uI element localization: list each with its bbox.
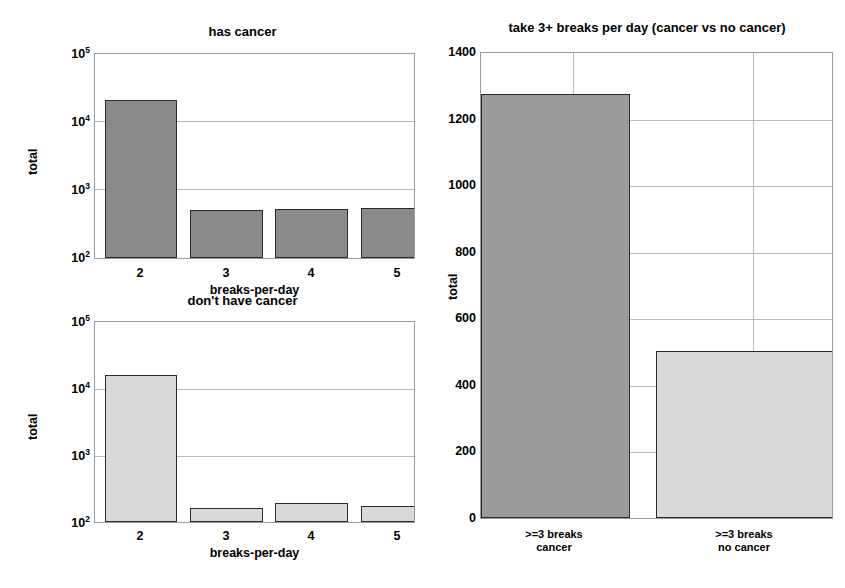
ytick-0: 0 [436,511,476,525]
panel-no-cancer-title: don't have cancer [70,293,415,308]
panel-three-plus-breaks-title: take 3+ breaks per day (cancer vs no can… [452,20,842,35]
xtick-three-plus-cancer: >=3 breaks cancer [525,528,583,554]
xtick-three-plus-no-cancer: >=3 breaks no cancer [715,528,773,554]
panel-has-cancer-ylabel: total [26,149,40,175]
ytick-1e2: 102 [46,249,90,265]
panel-has-cancer-title: has cancer [70,24,415,39]
bar-breaks-5 [361,506,415,522]
ytick-1e5: 105 [46,45,90,61]
xtick-3: 3 [223,529,230,543]
ytick-600: 600 [436,311,476,325]
bar-three-plus-no-cancer [656,351,833,518]
panel-has-cancer: has cancer total 105 104 103 102 2 3 4 5… [0,0,430,290]
chart-figure: { "figure": { "background": "#ffffff", "… [0,0,845,588]
ytick-1400: 1400 [436,45,476,59]
panel-three-plus-breaks-ylabel: total [446,274,460,300]
panel-no-cancer-plot [94,321,415,523]
xtick-line1: >=3 breaks [525,528,583,541]
ytick-1000: 1000 [436,178,476,192]
ytick-1e2: 102 [46,514,90,530]
bar-breaks-4 [275,209,348,258]
ytick-1e3: 103 [46,447,90,463]
bar-breaks-4 [275,503,348,522]
xtick-5: 5 [394,529,401,543]
xtick-4: 4 [308,529,315,543]
panel-three-plus-breaks-plot [480,52,833,519]
panel-no-cancer-xlabel: breaks-per-day [94,546,415,560]
xtick-2: 2 [137,529,144,543]
ytick-200: 200 [436,444,476,458]
ytick-1e4: 104 [46,380,90,396]
panel-three-plus-breaks: take 3+ breaks per day (cancer vs no can… [432,0,845,588]
panel-has-cancer-plot [94,53,415,259]
ytick-1e3: 103 [46,181,90,197]
panel-no-cancer-ylabel: total [26,414,40,440]
bar-breaks-2 [105,100,177,258]
ytick-1e4: 104 [46,113,90,129]
ytick-800: 800 [436,245,476,259]
bar-breaks-5 [361,208,415,258]
xtick-line2: no cancer [715,541,773,554]
xtick-line2: cancer [525,541,583,554]
bar-three-plus-cancer [481,94,630,518]
ytick-400: 400 [436,378,476,392]
bar-breaks-2 [105,375,177,522]
ytick-1200: 1200 [436,112,476,126]
panel-no-cancer: don't have cancer total 105 104 103 102 … [0,265,430,588]
bar-breaks-3 [190,508,263,522]
xtick-line1: >=3 breaks [715,528,773,541]
bar-breaks-3 [190,210,263,258]
ytick-1e5: 105 [46,313,90,329]
